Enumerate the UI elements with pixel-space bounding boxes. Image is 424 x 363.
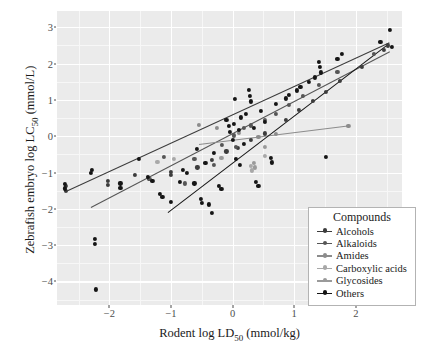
y-tick-label: 2 — [13, 58, 53, 69]
x-tick-label: 2 — [336, 308, 376, 319]
legend-key-icon — [316, 226, 333, 237]
data-point — [307, 80, 311, 84]
data-point — [150, 178, 154, 182]
legend-item-label: Carboxylic acids — [333, 263, 407, 274]
data-point — [224, 117, 228, 121]
data-point — [242, 142, 246, 146]
data-point — [378, 40, 382, 44]
y-tick-label: −4 — [13, 276, 53, 287]
data-point — [178, 180, 182, 184]
y-tick-label: 1 — [13, 94, 53, 105]
x-axis-label-sub: 50 — [234, 333, 243, 343]
y-tick-mark — [54, 27, 57, 28]
legend-item-others[interactable]: Others — [309, 287, 415, 299]
gridline — [57, 64, 402, 65]
y-tick-label: −1 — [13, 167, 53, 178]
data-point — [249, 138, 253, 142]
legend-item-amides[interactable]: Amides — [309, 250, 415, 262]
gridline — [109, 11, 110, 305]
data-point — [238, 162, 242, 166]
data-point — [195, 165, 199, 169]
legend-item-label: Others — [333, 288, 364, 299]
data-point — [335, 70, 339, 74]
gridline — [57, 27, 402, 28]
data-point — [219, 156, 223, 160]
legend-item-alkaloids[interactable]: Alkaloids — [309, 237, 415, 249]
legend-item-glycosides[interactable]: Glycosides — [309, 275, 415, 287]
chart-figure: Zebrafish embryo log LC50 (mmol/L) Roden… — [0, 0, 424, 363]
data-point — [287, 93, 291, 97]
data-point — [118, 186, 122, 190]
legend-item-label: Glycosides — [333, 275, 383, 286]
data-point — [212, 162, 216, 166]
data-point — [239, 115, 243, 119]
data-point — [311, 99, 315, 103]
y-tick-mark — [54, 136, 57, 137]
y-tick-label: 0 — [13, 131, 53, 142]
legend-dot — [323, 265, 328, 270]
legend-item-label: Alcohols — [333, 226, 374, 237]
data-point — [251, 125, 255, 129]
data-point — [382, 48, 386, 52]
data-point — [372, 52, 376, 56]
y-tick-label: 3 — [13, 22, 53, 33]
legend-key-icon — [316, 238, 333, 249]
data-point — [340, 52, 344, 56]
legend-dot — [323, 290, 328, 295]
data-point — [155, 160, 159, 164]
legend-item-carboxylic-acids[interactable]: Carboxylic acids — [309, 262, 415, 274]
data-point — [192, 181, 196, 185]
data-point — [274, 102, 278, 106]
legend-dot — [323, 241, 328, 246]
data-point — [244, 112, 248, 116]
gridline — [79, 11, 80, 305]
data-point — [207, 202, 211, 206]
data-point — [360, 64, 364, 68]
y-tick-label: −2 — [13, 203, 53, 214]
y-tick-label: −3 — [13, 240, 53, 251]
gridline — [57, 136, 402, 137]
data-point — [133, 173, 137, 177]
legend: Compounds AlcoholsAlkaloidsAmidesCarboxy… — [308, 207, 416, 306]
gridline — [202, 11, 203, 305]
gridline — [263, 11, 264, 305]
data-point — [259, 109, 263, 113]
y-tick-mark — [54, 245, 57, 246]
x-axis-label-post: (mmol/kg) — [243, 326, 300, 340]
data-point — [298, 85, 302, 89]
data-point — [227, 124, 231, 128]
data-point — [256, 135, 260, 139]
data-point — [210, 211, 214, 215]
x-tick-label: 0 — [213, 308, 253, 319]
data-point — [220, 143, 224, 147]
data-point — [263, 120, 267, 124]
data-point — [249, 99, 253, 103]
y-axis-label-pre: Zebrafish embryo log LC — [23, 126, 37, 253]
gridline — [57, 100, 402, 101]
data-point — [182, 181, 186, 185]
data-point — [313, 75, 317, 79]
x-axis-label: Rodent log LD50 (mmol/kg) — [57, 326, 402, 343]
data-point — [89, 171, 93, 175]
data-point — [324, 90, 328, 94]
data-point — [270, 160, 274, 164]
data-point — [256, 184, 260, 188]
data-point — [389, 45, 393, 49]
data-point — [200, 201, 204, 205]
data-point — [232, 122, 236, 126]
x-tick-label: −2 — [89, 308, 129, 319]
data-point — [92, 236, 96, 240]
gridline — [294, 11, 295, 305]
legend-key-icon — [316, 275, 333, 286]
data-point — [230, 138, 234, 142]
x-tick-label: 1 — [274, 308, 314, 319]
y-axis-label-sub: 50 — [30, 117, 40, 126]
legend-item-alcohols[interactable]: Alcohols — [309, 225, 415, 237]
data-point — [185, 171, 189, 175]
data-point — [242, 126, 246, 130]
legend-title: Compounds — [309, 208, 415, 225]
data-point — [160, 195, 164, 199]
data-point — [318, 64, 322, 68]
data-point — [169, 173, 173, 177]
data-point — [248, 93, 252, 97]
